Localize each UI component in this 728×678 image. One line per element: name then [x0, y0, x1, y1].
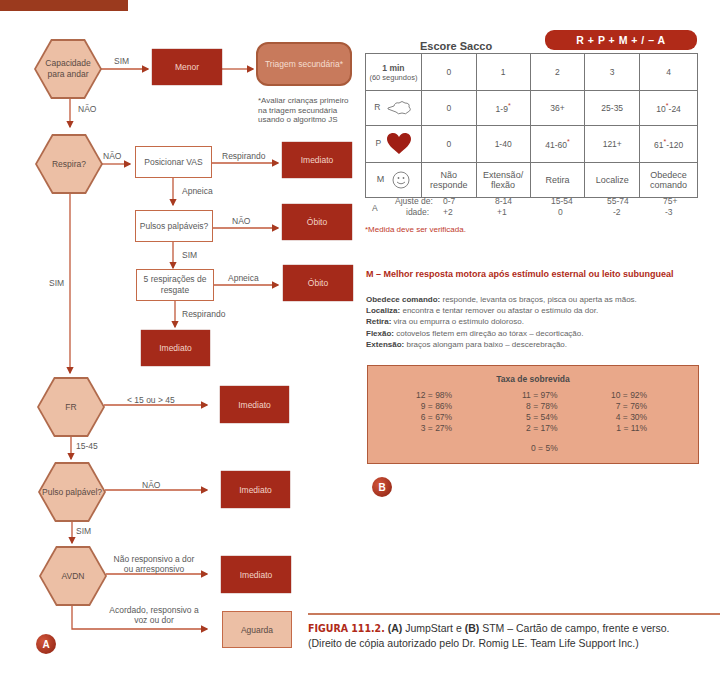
- survival-box: Taxa de sobrevida 12 = 98%9 = 86%6 = 67%…: [367, 365, 699, 464]
- motor-item: Localiza: encontra e tentar remover ou a…: [366, 305, 716, 316]
- edge-breathing-2: Respirando: [182, 309, 225, 319]
- age-adjustment: A Ajuste de: idade: 0-7 +2 8-14 +1 15-54…: [365, 196, 698, 220]
- figure-caption: FIGURA 111.2. (A) JumpStart e (B) STM – …: [308, 621, 728, 651]
- smiley-icon: [392, 171, 410, 189]
- edge-pulses-no: NÃO: [232, 216, 250, 226]
- edge-pulse-yes: SIM: [76, 526, 91, 536]
- edge-apnea-2: Apneica: [228, 273, 259, 283]
- edge-breath-no: NÃO: [103, 151, 121, 161]
- panel-b-badge: B: [372, 477, 392, 497]
- edge-breath-yes: SIM: [49, 278, 64, 288]
- motor-title: M – Melhor resposta motora após estímulo…: [366, 269, 674, 279]
- node-immediate-3: Imediato: [220, 386, 289, 423]
- node-rescue-breaths: 5 respirações de resgate: [136, 269, 214, 301]
- secondary-note: *Avaliar crianças primeiro na triagem se…: [258, 96, 356, 125]
- motor-item: Retira: vira ou empurra o estímulo dolor…: [366, 316, 716, 327]
- node-wait: Aguarda: [222, 611, 292, 648]
- sacco-row-p: P 0 1-40 41-60* 121+ 61*-120: [366, 126, 698, 163]
- motor-item: Flexão: cotovelos fletem em direção ao t…: [366, 328, 716, 339]
- motor-item: Obedece comando: responde, levanta os br…: [366, 294, 716, 305]
- node-minor: Menor: [152, 49, 222, 85]
- node-pulses: Pulsos palpáveis?: [135, 210, 213, 242]
- motor-item: Extensão: braços alongam para baixo – de…: [366, 339, 716, 350]
- lungs-icon: [386, 100, 412, 116]
- sacco-footnote: *Medida deve ser verificada.: [365, 225, 466, 234]
- node-death-1: Óbito: [282, 204, 352, 240]
- survival-zero: 0 = 5%: [531, 443, 558, 454]
- node-secondary-triage: Triagem secundária*: [256, 42, 352, 86]
- edge-walk-no: NÃO: [78, 104, 96, 114]
- edge-avpu-unresponsive: Não responsivo a dor ou arresponsivo: [110, 554, 198, 574]
- panel-a-badge: A: [36, 634, 56, 654]
- edge-rr-abnormal: < 15 ou > 45: [127, 395, 175, 405]
- edge-pulses-yes: SIM: [182, 250, 197, 260]
- sacco-title: Escore Sacco: [420, 40, 492, 52]
- node-immediate-5: Imediato: [221, 556, 291, 593]
- edge-walk-yes: SIM: [114, 56, 129, 66]
- survival-col-3: 10 = 92%7 = 76%4 = 30%1 = 11%: [611, 390, 647, 434]
- node-position-airway: Posicionar VAS: [135, 146, 212, 178]
- node-immediate-2: Imediato: [141, 330, 210, 366]
- motor-descriptions: Obedece comando: responde, levanta os br…: [366, 294, 716, 350]
- sacco-header-row: 1 min(60 segundos) 0 1 2 3 4: [366, 54, 698, 91]
- sacco-row-r: R 0 1-9* 36+ 25-35 10*-24: [366, 91, 698, 126]
- caption-rule: [308, 613, 720, 615]
- node-immediate-4: Imediato: [221, 471, 290, 508]
- sacco-table: 1 min(60 segundos) 0 1 2 3 4 R 0 1-9* 36…: [365, 53, 698, 198]
- survival-col-1: 12 = 98%9 = 86%6 = 67%3 = 27%: [416, 390, 452, 434]
- survival-col-2: 11 = 97%8 = 78%5 = 54%2 = 17%: [522, 390, 558, 434]
- edge-breathing: Respirando: [222, 151, 265, 161]
- edge-apnea-1: Apneica: [182, 186, 213, 196]
- node-death-2: Óbito: [283, 265, 353, 301]
- node-immediate-1: Imediato: [282, 142, 352, 178]
- edge-rr-normal: 15-45: [76, 441, 98, 451]
- heart-icon: [387, 133, 411, 155]
- edge-avpu-responsive: Acordado, responsivo a voz ou dor: [106, 605, 202, 625]
- sacco-formula: R + P + M + / – A: [545, 30, 697, 50]
- edge-pulse-no: NÃO: [142, 480, 160, 490]
- sacco-row-m: M Não responde Extensão/ flexão Retira L…: [366, 163, 698, 198]
